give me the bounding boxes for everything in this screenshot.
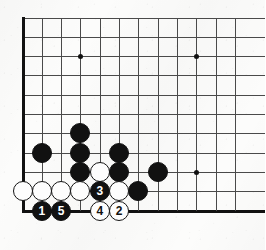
stone-move-number: 3 [96, 185, 103, 197]
grid-line-vertical [235, 18, 236, 211]
grid-line-horizontal [23, 172, 266, 173]
grid-line-horizontal [23, 37, 266, 38]
star-point-icon [194, 170, 199, 175]
stone-white[interactable] [70, 181, 90, 201]
grid-line-horizontal [23, 133, 266, 134]
grid-line-vertical [177, 18, 178, 211]
grid-line-vertical [196, 18, 197, 211]
stone-white[interactable] [109, 181, 129, 201]
grid-line-horizontal [23, 114, 266, 115]
grid-line-horizontal [23, 75, 266, 76]
stone-move-number: 1 [38, 205, 45, 217]
stone-black[interactable] [128, 181, 148, 201]
stone-white-move-2[interactable]: 2 [109, 201, 129, 221]
go-board-diagram: 31542 [0, 0, 265, 250]
stone-move-number: 2 [116, 205, 123, 217]
grid-line-horizontal [23, 95, 266, 96]
stone-white[interactable] [32, 181, 52, 201]
stone-black-move-3[interactable]: 3 [90, 181, 110, 201]
star-point-icon [194, 54, 199, 59]
stone-black[interactable] [109, 162, 129, 182]
stone-white[interactable] [90, 162, 110, 182]
grid-line-vertical [216, 18, 217, 211]
stone-black[interactable] [109, 143, 129, 163]
stone-move-number: 4 [96, 205, 103, 217]
stone-white[interactable] [51, 181, 71, 201]
stone-black[interactable] [70, 123, 90, 143]
stone-black[interactable] [148, 162, 168, 182]
stone-black[interactable] [32, 143, 52, 163]
stone-black[interactable] [70, 143, 90, 163]
stone-move-number: 5 [58, 205, 65, 217]
stone-white[interactable] [13, 181, 33, 201]
stone-black-move-5[interactable]: 5 [51, 201, 71, 221]
star-point-icon [78, 54, 83, 59]
grid-line-horizontal [23, 18, 266, 19]
grid-line-horizontal [23, 56, 266, 57]
stone-white-move-4[interactable]: 4 [90, 201, 110, 221]
stone-black[interactable] [70, 162, 90, 182]
grid-line-horizontal [23, 153, 266, 154]
stone-black-move-1[interactable]: 1 [32, 201, 52, 221]
